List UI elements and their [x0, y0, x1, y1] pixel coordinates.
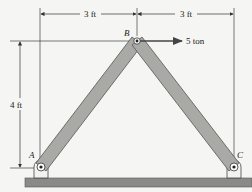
dimension-label-left-span: 3 ft: [84, 9, 97, 19]
member-bc: [132, 37, 239, 171]
extension-lines: [10, 8, 234, 168]
dimension-label-right-span: 3 ft: [180, 9, 193, 19]
dimension-height: 4 ft: [10, 42, 23, 167]
truss-diagram: 3 ft 3 ft 4 ft: [0, 0, 252, 192]
joint-label-b: B: [124, 28, 130, 38]
dimension-right-span: 3 ft: [138, 9, 233, 19]
ground: [25, 178, 252, 187]
member-ab: [36, 37, 142, 171]
diagram-svg: 3 ft 3 ft 4 ft: [0, 0, 252, 192]
joint-label-c: C: [237, 150, 244, 160]
load-arrow: 5 ton: [140, 36, 205, 46]
pin-a-icon: [37, 163, 45, 171]
load-label: 5 ton: [186, 36, 205, 46]
joint-label-a: A: [28, 150, 35, 160]
pin-c-icon: [230, 163, 238, 171]
dimension-left-span: 3 ft: [41, 9, 136, 19]
dimension-label-height: 4 ft: [10, 100, 23, 110]
pin-b-icon: [134, 38, 140, 44]
